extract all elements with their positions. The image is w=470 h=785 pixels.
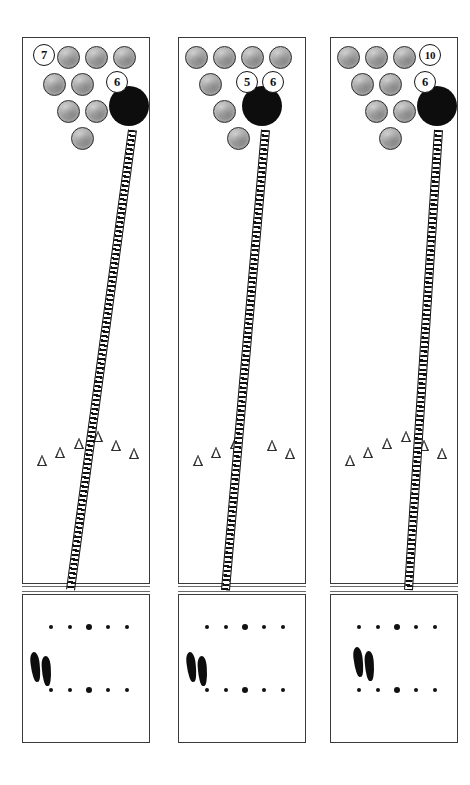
footprint-left [29,652,42,683]
bowling-diagram-stage: 7656106 [0,0,470,785]
lane-surface: 56 [178,37,306,584]
bowling-pin [379,127,402,150]
approach-area [178,594,306,743]
approach-dot-top [86,624,92,630]
bowling-pin [213,46,236,69]
lane-arrow-marker [111,440,121,451]
approach-dot-bottom [376,688,380,692]
bowling-pin [43,73,66,96]
pin-number-5: 5 [236,71,258,93]
bowling-pin [351,73,374,96]
bowling-pin [199,73,222,96]
lane-arrow-marker [129,448,139,459]
pin-number-7: 7 [33,44,55,66]
pin-number-6: 6 [106,71,128,93]
approach-dot-bottom [205,688,209,692]
lane-arrow-marker [345,455,355,466]
approach-dot-bottom [281,688,285,692]
foul-line [178,586,306,592]
approach-dot-bottom [262,688,266,692]
approach-dot-bottom [414,688,418,692]
ball-path [404,130,443,591]
lane-arrow-marker [37,455,47,466]
approach-dot-bottom [49,688,53,692]
approach-area [22,594,150,743]
lane-panel-1: 76 [22,37,150,743]
lane-panel-2: 56 [178,37,306,743]
ball-path [221,130,270,591]
lane-arrow-marker [285,448,295,459]
approach-dot-bottom [357,688,361,692]
ball-path [66,129,137,590]
lane-surface: 76 [22,37,150,584]
lane-surface: 106 [330,37,458,584]
foul-line [22,586,150,592]
bowling-pin [227,127,250,150]
approach-dot-top [242,624,248,630]
approach-dot-top [357,625,361,629]
bowling-pin [213,100,236,123]
approach-dot-bottom [68,688,72,692]
bowling-pin [269,46,292,69]
lane-arrow-marker [193,455,203,466]
approach-dot-top [394,624,400,630]
lane-panel-3: 106 [330,37,458,743]
lane-arrow-marker [55,447,65,458]
approach-dot-bottom [433,688,437,692]
approach-dot-top [281,625,285,629]
lane-arrow-marker [401,431,411,442]
footprint-left [352,647,365,678]
bowling-pin [337,46,360,69]
bowling-pin [365,100,388,123]
lane-arrow-marker [74,438,84,449]
bowling-pin [57,100,80,123]
approach-dot-top [125,625,129,629]
approach-dot-top [49,625,53,629]
bowling-pin [393,46,416,69]
bowling-pin [241,46,264,69]
pin-number-10: 10 [419,44,441,66]
approach-dot-top [205,625,209,629]
approach-dot-bottom [242,687,248,693]
bowling-pin [393,100,416,123]
pin-number-6: 6 [262,71,284,93]
approach-dot-bottom [106,688,110,692]
footprint-right [364,651,375,682]
bowling-pin [71,73,94,96]
bowling-pin [379,73,402,96]
lane-arrow-marker [382,438,392,449]
footprint-left [185,652,198,683]
bowling-pin [185,46,208,69]
approach-dot-top [262,625,266,629]
bowling-pin [71,127,94,150]
approach-dot-top [106,625,110,629]
bowling-pin [85,100,108,123]
foul-line [330,586,458,592]
approach-dot-top [224,625,228,629]
pin-number-6: 6 [414,71,436,93]
approach-dot-bottom [86,687,92,693]
bowling-pin [365,46,388,69]
footprint-right [197,656,208,687]
approach-dot-bottom [125,688,129,692]
approach-dot-bottom [394,687,400,693]
bowling-pin [113,46,136,69]
approach-dot-bottom [224,688,228,692]
lane-arrow-marker [267,440,277,451]
approach-dot-top [433,625,437,629]
lane-arrow-marker [363,447,373,458]
approach-dot-top [376,625,380,629]
approach-dot-top [68,625,72,629]
lane-arrow-marker [437,448,447,459]
lane-arrow-marker [211,447,221,458]
approach-area [330,594,458,743]
bowling-pin [57,46,80,69]
bowling-pin [85,46,108,69]
footprint-right [41,656,52,687]
approach-dot-top [414,625,418,629]
